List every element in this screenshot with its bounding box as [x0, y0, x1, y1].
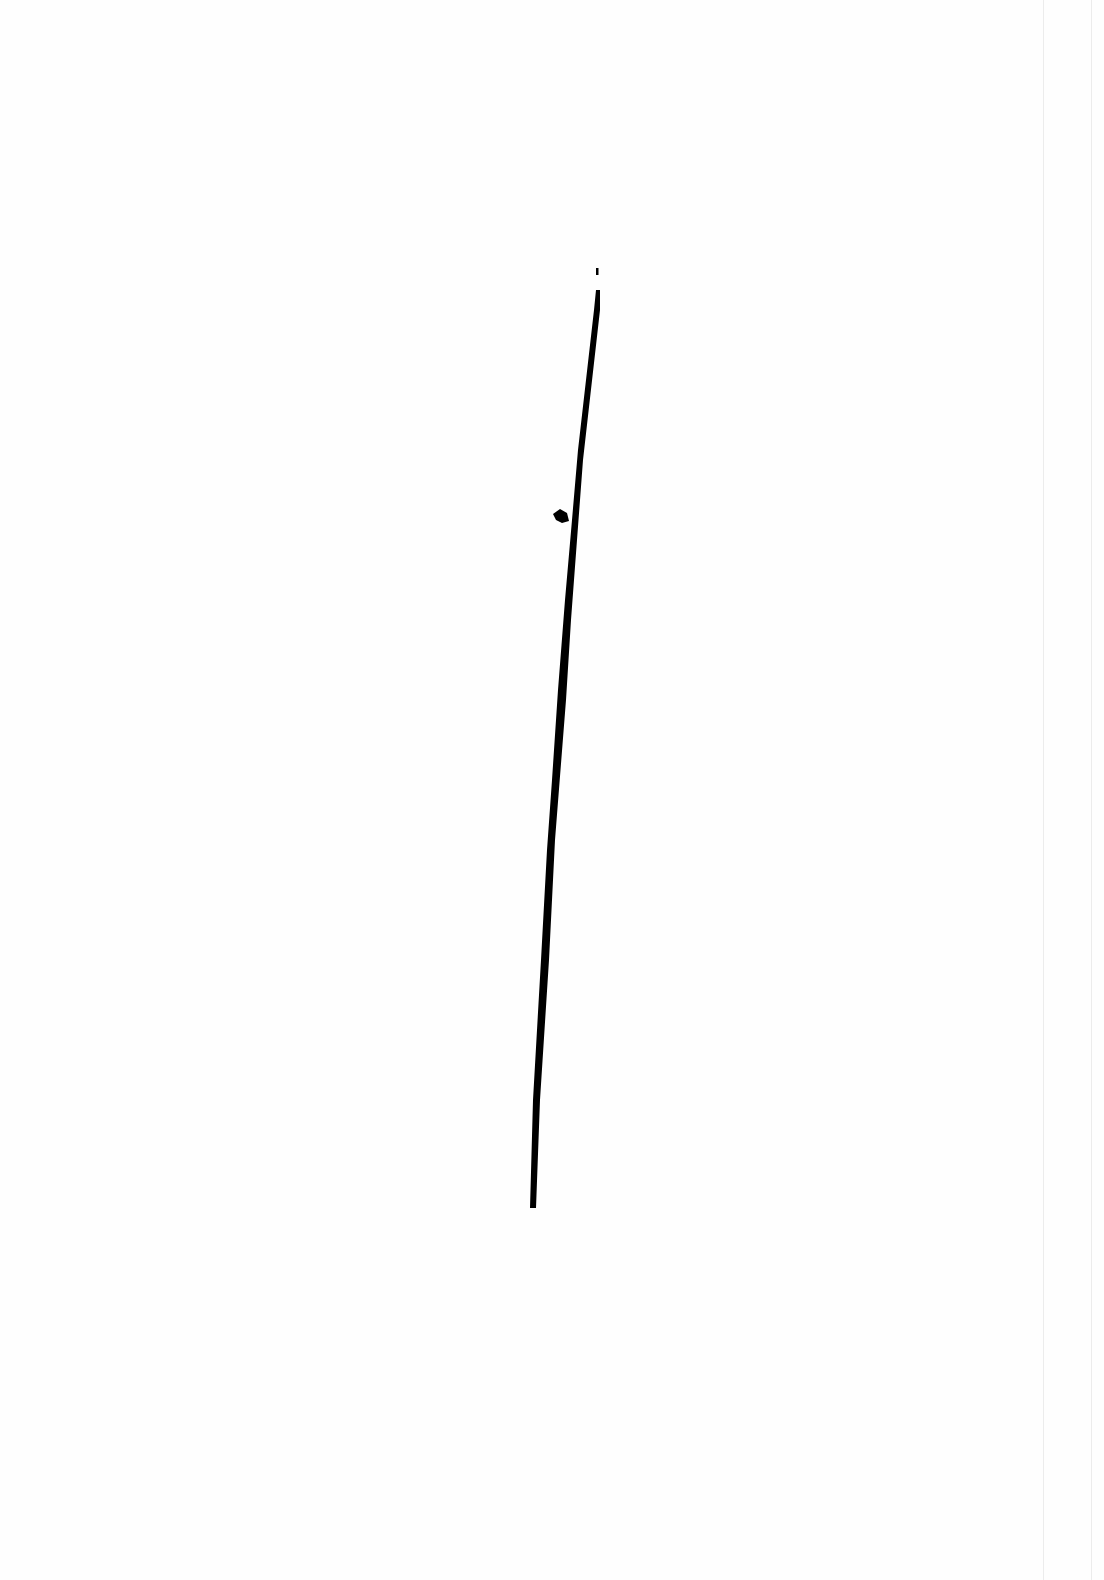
hand-drawn-line	[0, 0, 1104, 1580]
ink-blob	[553, 509, 569, 523]
diagonal-stroke	[530, 290, 600, 1208]
scanned-page	[0, 0, 1104, 1580]
ink-tick	[596, 268, 599, 275]
